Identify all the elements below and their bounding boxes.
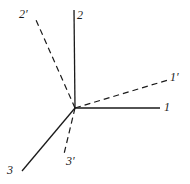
axis-label-1: 1: [164, 101, 170, 113]
axis-2-line: [74, 10, 75, 108]
axes-drawing-canvas: [0, 0, 190, 184]
axis-label-2-prime: 2′: [19, 8, 28, 20]
coordinate-axes-figure: 2 2′ 1′ 1 3′ 3: [0, 0, 190, 184]
axis-label-2: 2: [77, 9, 83, 21]
axis-1-prime-line: [75, 80, 168, 108]
axis-label-1-prime: 1′: [170, 71, 179, 83]
axis-2-prime-line: [36, 20, 75, 108]
axis-label-3-prime: 3′: [66, 155, 75, 167]
axis-label-3: 3: [7, 164, 13, 176]
